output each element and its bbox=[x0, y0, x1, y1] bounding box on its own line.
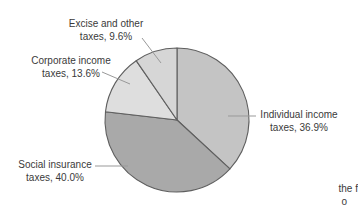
label-social-line1: Social insurance bbox=[15, 158, 95, 171]
label-corporate-line1: Corporate income bbox=[26, 54, 116, 67]
pie-slices bbox=[105, 48, 249, 192]
cropped-caption-line2: o bbox=[298, 195, 358, 208]
pie-chart-figure: Excise and other taxes, 9.6% Corporate i… bbox=[0, 0, 358, 212]
label-social-line2: taxes, 40.0% bbox=[15, 171, 95, 184]
cropped-caption-line1: the f bbox=[298, 182, 358, 195]
label-corporate-income-taxes: Corporate income taxes, 13.6% bbox=[26, 54, 116, 80]
label-individual-income-taxes: Individual income taxes, 36.9% bbox=[258, 108, 340, 134]
label-individual-line2: taxes, 36.9% bbox=[258, 121, 340, 134]
label-corporate-line2: taxes, 13.6% bbox=[26, 67, 116, 80]
label-excise-line2: taxes, 9.6% bbox=[66, 30, 146, 43]
label-social-insurance-taxes: Social insurance taxes, 40.0% bbox=[15, 158, 95, 184]
label-excise-line1: Excise and other bbox=[66, 17, 146, 30]
label-individual-line1: Individual income bbox=[258, 108, 340, 121]
label-excise-and-other-taxes: Excise and other taxes, 9.6% bbox=[66, 17, 146, 43]
cropped-caption-text: the f o bbox=[298, 182, 358, 208]
